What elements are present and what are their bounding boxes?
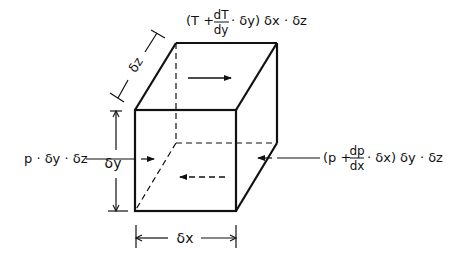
svg-text:dT: dT: [214, 8, 230, 22]
svg-text:· δx) δy · δz: · δx) δy · δz: [367, 150, 443, 165]
dimension-dz-label: δz: [125, 54, 146, 75]
cube-front-face: [135, 110, 236, 211]
dimension-dy-label: δy: [105, 155, 122, 171]
cube-hidden-edge-diagonal: [135, 143, 176, 211]
cube-edge-top-left: [135, 43, 176, 110]
svg-text:dy: dy: [214, 23, 229, 37]
left-pressure-label: p · δy · δz: [24, 151, 88, 166]
svg-text:dp: dp: [349, 144, 364, 158]
cube-edge-bottom-right: [236, 143, 277, 211]
svg-text:(T +: (T +: [186, 13, 214, 28]
svg-text:· δy) δx · δz: · δy) δx · δz: [231, 13, 307, 28]
cube: [135, 43, 277, 211]
svg-text:(p +: (p +: [323, 150, 351, 165]
right-pressure-label: (p + dp dx · δx) δy · δz: [323, 144, 443, 173]
dimension-dx-label: δx: [177, 230, 194, 246]
cube-edge-top-right: [236, 43, 277, 110]
top-shear-label: (T + dT dy · δy) δx · δz: [186, 8, 307, 37]
fluid-element-diagram: δz δy δx (T + dT dy · δy) δx · δz p · δy…: [0, 0, 463, 257]
svg-text:dx: dx: [350, 159, 365, 173]
